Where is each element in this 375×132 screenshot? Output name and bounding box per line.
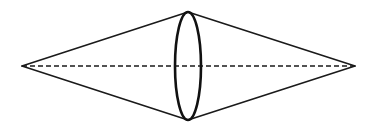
bicone-figure-canvas [0, 0, 375, 132]
bicone-diagram [0, 0, 375, 132]
